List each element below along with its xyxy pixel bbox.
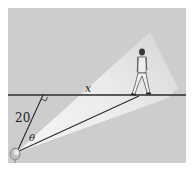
- x-distance-label: x: [85, 82, 92, 95]
- distance-label: 20: [15, 111, 30, 125]
- spotlight-diagram: 20 θ x: [0, 0, 193, 170]
- angle-label: θ: [29, 132, 35, 143]
